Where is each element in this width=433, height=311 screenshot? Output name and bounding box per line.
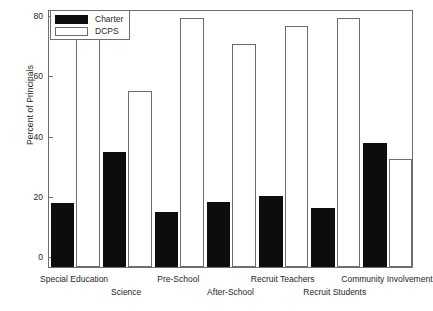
x-axis-label-recruit-students: Recruit Students	[303, 287, 366, 297]
bar-group	[49, 11, 101, 267]
bar-dcps-recruit-teachers	[285, 26, 309, 267]
legend-label: DCPS	[95, 26, 119, 36]
x-axis-label-science: Science	[111, 287, 141, 297]
bar-charter-special-education	[51, 203, 75, 267]
x-axis-label-recruit-teachers: Recruit Teachers	[251, 274, 315, 284]
bar-group	[362, 11, 414, 267]
bar-charter-science	[103, 152, 127, 267]
legend-swatch-icon	[55, 15, 88, 24]
plot-area: 020406080	[48, 10, 413, 268]
legend-entry-charter: Charter	[55, 14, 123, 24]
bar-group	[153, 11, 205, 267]
bar-charter-recruit-teachers	[259, 196, 283, 267]
y-axis-tick-label: 60	[34, 71, 49, 81]
bar-dcps-recruit-students	[337, 18, 361, 267]
bar-group	[310, 11, 362, 267]
x-axis-label-community-involvement: Community Involvement	[341, 274, 432, 284]
bar-group	[258, 11, 310, 267]
bar-dcps-special-education	[76, 18, 100, 267]
bar-dcps-science	[128, 91, 152, 267]
bar-group	[101, 11, 153, 267]
bar-charter-recruit-students	[311, 208, 335, 267]
legend-label: Charter	[95, 14, 123, 24]
bar-dcps-pre-school	[180, 18, 204, 267]
legend-entry-dcps: DCPS	[55, 26, 123, 36]
x-axis-label-after-school: After-School	[207, 287, 254, 297]
bar-charter-after-school	[207, 202, 231, 267]
bar-charter-pre-school	[155, 212, 179, 267]
y-axis-tick-label: 20	[34, 192, 49, 202]
bar-group	[205, 11, 257, 267]
y-axis-title: Percent of Principals	[25, 15, 35, 195]
x-axis-label-special-education: Special Education	[40, 274, 108, 284]
bar-dcps-after-school	[232, 44, 256, 267]
legend-swatch-icon	[55, 27, 88, 36]
bar-dcps-community-involvement	[389, 159, 413, 267]
x-axis-label-pre-school: Pre-School	[157, 274, 199, 284]
bar-charter-community-involvement	[363, 143, 387, 267]
y-axis-tick-label: 0	[38, 252, 49, 262]
y-axis-tick-label: 40	[34, 132, 49, 142]
y-axis-tick-label: 80	[34, 11, 49, 21]
chart-legend: CharterDCPS	[50, 10, 130, 40]
bar-series-container	[49, 11, 412, 267]
